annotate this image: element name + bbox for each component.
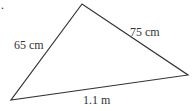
side-label-bottom: 1.1 m xyxy=(83,93,111,107)
triangle-diagram: . 65 cm 75 cm 1.1 m xyxy=(0,0,195,111)
side-label-left: 65 cm xyxy=(14,38,44,52)
figure-number-fragment: . xyxy=(1,0,4,12)
side-label-right: 75 cm xyxy=(130,25,160,39)
triangle-shape xyxy=(11,4,188,100)
